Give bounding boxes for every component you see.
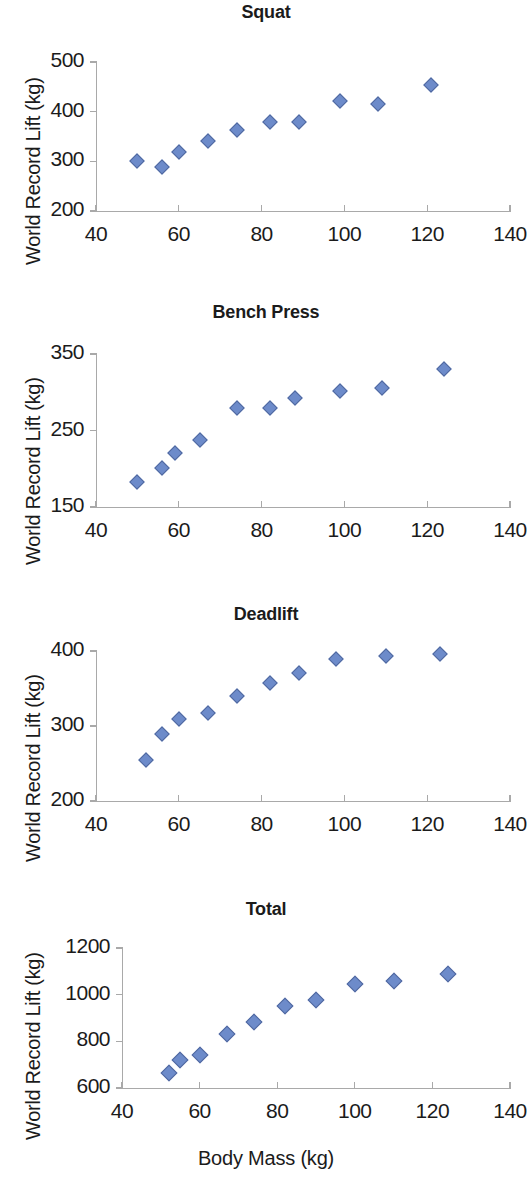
y-axis-tick (90, 61, 97, 62)
x-axis-tick (95, 501, 96, 508)
x-axis-tick (95, 795, 96, 802)
y-axis-tick-label: 200 (0, 787, 84, 811)
x-axis-tick-label: 60 (170, 1099, 230, 1123)
data-point-marker (154, 460, 170, 476)
data-point-marker (287, 391, 303, 407)
data-point-marker (439, 965, 456, 982)
x-axis-tick (354, 1082, 355, 1089)
data-point-marker (291, 114, 307, 130)
x-axis-tick (509, 1082, 510, 1089)
x-axis-tick-label: 80 (247, 1099, 307, 1123)
data-point-marker (171, 145, 187, 161)
data-point-marker (385, 972, 402, 989)
data-point-marker (218, 1025, 235, 1042)
data-point-marker (200, 705, 216, 721)
data-point-marker (191, 1047, 208, 1064)
x-axis-label: Body Mass (kg) (0, 1147, 532, 1170)
y-axis-tick-label: 500 (0, 48, 84, 72)
plot-area-total: 60080010001200406080100120140 (0, 885, 532, 1178)
y-axis-tick (90, 430, 97, 431)
data-point-marker (262, 401, 278, 417)
x-axis-tick-label: 100 (325, 1099, 385, 1123)
panel-squat: Squat World Record Lift (kg) 20030040050… (0, 0, 532, 290)
y-axis-tick-label: 350 (0, 340, 84, 364)
x-axis-tick-label: 40 (92, 1099, 152, 1123)
data-point-marker (229, 401, 245, 417)
x-axis-tick (277, 1082, 278, 1089)
x-axis-tick (344, 205, 345, 212)
y-axis-tick (116, 994, 123, 995)
x-axis-tick-label: 80 (232, 812, 292, 836)
x-axis-tick-label: 40 (66, 222, 126, 246)
y-axis-line (96, 62, 97, 211)
x-axis-tick-label: 80 (232, 518, 292, 542)
x-axis-line (96, 507, 510, 508)
y-axis-tick-label: 1200 (26, 934, 110, 958)
data-point-marker (424, 78, 440, 94)
x-axis-tick (427, 501, 428, 508)
y-axis-tick-label: 150 (0, 493, 84, 517)
x-axis-tick-label: 40 (66, 812, 126, 836)
x-axis-tick-label: 60 (149, 518, 209, 542)
data-point-marker (346, 976, 363, 993)
x-axis-tick (509, 501, 510, 508)
data-point-marker (378, 648, 394, 664)
data-point-marker (154, 726, 170, 742)
x-axis-tick-label: 60 (149, 812, 209, 836)
data-point-marker (245, 1013, 262, 1030)
x-axis-tick (344, 501, 345, 508)
data-point-marker (276, 997, 293, 1014)
x-axis-tick (344, 795, 345, 802)
x-axis-tick (261, 501, 262, 508)
y-axis-tick-label: 800 (26, 1027, 110, 1051)
y-axis-tick (116, 947, 123, 948)
data-point-marker (130, 154, 146, 170)
x-axis-tick-label: 140 (480, 518, 532, 542)
y-axis-tick (90, 650, 97, 651)
data-point-marker (200, 133, 216, 149)
y-axis-tick (90, 353, 97, 354)
x-axis-tick-label: 40 (66, 518, 126, 542)
data-point-marker (154, 160, 170, 176)
x-axis-tick (432, 1082, 433, 1089)
x-axis-tick (261, 795, 262, 802)
x-axis-tick (178, 501, 179, 508)
y-axis-tick-label: 400 (0, 98, 84, 122)
data-point-marker (332, 93, 348, 109)
x-axis-tick (178, 795, 179, 802)
data-point-marker (374, 380, 390, 396)
x-axis-tick-label: 80 (232, 222, 292, 246)
data-point-marker (308, 992, 325, 1009)
data-point-marker (172, 1052, 189, 1069)
y-axis-tick-label: 250 (0, 417, 84, 441)
plot-area-deadlift: 200300400406080100120140 (0, 590, 532, 885)
y-axis-tick-label: 200 (0, 197, 84, 221)
x-axis-line (122, 1088, 510, 1089)
y-axis-tick-label: 600 (26, 1074, 110, 1098)
data-point-marker (328, 651, 344, 667)
y-axis-line (122, 948, 123, 1088)
x-axis-tick-label: 120 (397, 518, 457, 542)
y-axis-tick (90, 111, 97, 112)
x-axis-tick-label: 140 (480, 222, 532, 246)
data-point-marker (130, 474, 146, 490)
x-axis-tick-label: 140 (480, 812, 532, 836)
x-axis-tick-label: 120 (397, 222, 457, 246)
y-axis-tick-label: 1000 (26, 981, 110, 1005)
data-point-marker (262, 675, 278, 691)
x-axis-tick (509, 205, 510, 212)
data-point-marker (160, 1064, 177, 1081)
panel-total: Total World Record Lift (kg) 60080010001… (0, 885, 532, 1178)
x-axis-tick-label: 100 (314, 222, 374, 246)
data-point-marker (262, 114, 278, 130)
x-axis-tick (509, 795, 510, 802)
y-axis-tick (90, 725, 97, 726)
x-axis-tick (95, 205, 96, 212)
x-axis-tick (427, 795, 428, 802)
x-axis-tick-label: 120 (402, 1099, 462, 1123)
x-axis-tick-label: 120 (397, 812, 457, 836)
x-axis-tick (427, 205, 428, 212)
data-point-marker (432, 646, 448, 662)
y-axis-tick-label: 300 (0, 712, 84, 736)
x-axis-tick (261, 205, 262, 212)
